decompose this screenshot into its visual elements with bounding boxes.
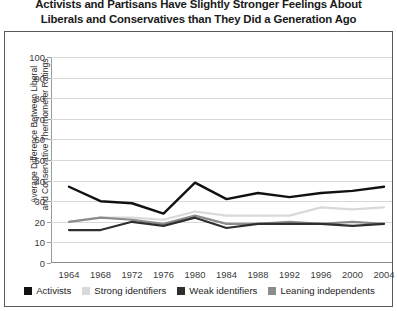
- legend-label: Leaning independents: [280, 285, 374, 296]
- legend-swatch: [24, 287, 32, 295]
- x-tick-label: 2000: [342, 269, 363, 280]
- y-tick-label: 40: [35, 175, 45, 186]
- x-tick-label: 1984: [216, 269, 237, 280]
- legend-swatch: [268, 287, 276, 295]
- y-tick-label: 0: [40, 258, 45, 269]
- legend-item[interactable]: Leaning independents: [268, 285, 374, 296]
- chart-title: Activists and Partisans Have Slightly St…: [0, 0, 397, 27]
- legend-swatch: [82, 287, 90, 295]
- y-tick-label: 100: [29, 52, 45, 63]
- chart-legend: ActivistsStrong identifiersWeak identifi…: [5, 285, 394, 296]
- x-tick-label: 1988: [248, 269, 269, 280]
- legend-label: Weak identifiers: [189, 285, 257, 296]
- legend-item[interactable]: Activists: [24, 285, 71, 296]
- x-tick-label: 2004: [374, 269, 395, 280]
- y-tick-label: 30: [35, 196, 45, 207]
- y-tick-label: 50: [35, 155, 45, 166]
- y-tick-label: 70: [35, 113, 45, 124]
- y-tick-mark: [47, 263, 51, 264]
- x-tick-label: 1976: [153, 269, 174, 280]
- series-lines: [51, 57, 392, 263]
- y-tick-label: 20: [35, 216, 45, 227]
- y-tick-label: 10: [35, 237, 45, 248]
- legend-label: Strong identifiers: [94, 285, 166, 296]
- y-tick-label: 60: [35, 134, 45, 145]
- plot-area: 0102030405060708090100 19641968197219761…: [51, 57, 392, 263]
- legend-item[interactable]: Strong identifiers: [82, 285, 166, 296]
- chart-title-line-2: Liberals and Conservatives than They Did…: [0, 12, 397, 27]
- legend-item[interactable]: Weak identifiers: [177, 285, 257, 296]
- x-tick-label: 1996: [311, 269, 332, 280]
- y-tick-label: 90: [35, 72, 45, 83]
- x-tick-label: 1992: [279, 269, 300, 280]
- legend-swatch: [177, 287, 185, 295]
- x-tick-label: 1964: [59, 269, 80, 280]
- x-tick-label: 1968: [90, 269, 111, 280]
- chart-frame: Average Difference Between Liberal and C…: [4, 31, 393, 307]
- x-tick-label: 1980: [185, 269, 206, 280]
- x-tick-label: 1972: [122, 269, 143, 280]
- chart-title-line-1: Activists and Partisans Have Slightly St…: [0, 0, 397, 12]
- y-tick-label: 80: [35, 93, 45, 104]
- legend-label: Activists: [36, 285, 71, 296]
